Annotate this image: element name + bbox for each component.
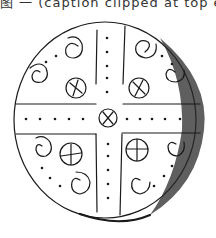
spiral-icon bbox=[66, 37, 83, 58]
disc-drawing bbox=[0, 0, 216, 238]
cross-circle-icon bbox=[60, 143, 82, 165]
cross-circle-icon bbox=[129, 78, 149, 98]
dot-rows bbox=[25, 37, 182, 200]
cross-circle-icon bbox=[126, 139, 148, 161]
spiral-icon bbox=[36, 137, 51, 157]
spiral-icon bbox=[30, 64, 47, 82]
cross-circle-icon bbox=[66, 78, 86, 98]
spiral-icon bbox=[132, 178, 150, 194]
spiral-icon bbox=[136, 41, 157, 58]
spiral-icon bbox=[72, 172, 90, 194]
disc-shaded-edge bbox=[150, 38, 205, 215]
